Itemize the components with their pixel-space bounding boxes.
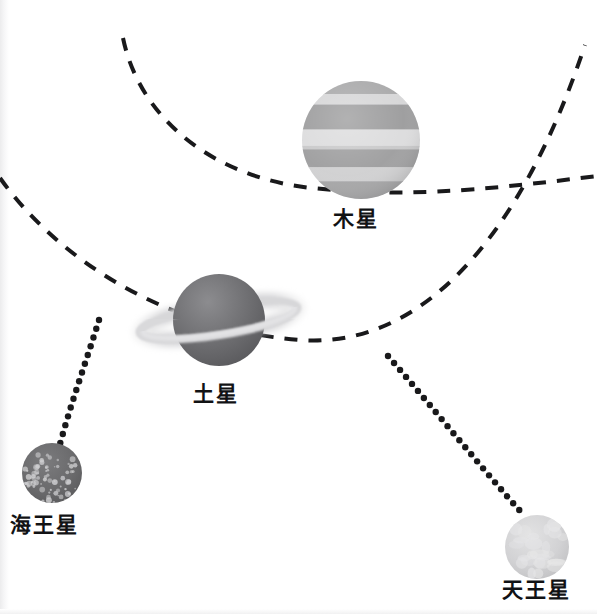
- planet-label-neptune: 海王星: [10, 515, 79, 536]
- planet-jupiter: [300, 81, 422, 200]
- planet-label-saturn: 土星: [193, 384, 239, 405]
- jupiter-bands: [300, 81, 422, 200]
- planet-neptune: [22, 443, 82, 505]
- planet-uranus: [505, 515, 569, 579]
- planet-label-uranus: 天王星: [502, 580, 571, 601]
- planet-layer: [0, 0, 597, 614]
- saturn-body: [173, 274, 265, 366]
- planet-label-jupiter: 木星: [333, 209, 379, 230]
- planet-saturn: [173, 274, 265, 366]
- solar-system-diagram: 木星 土星 海王星 天王星: [0, 0, 597, 614]
